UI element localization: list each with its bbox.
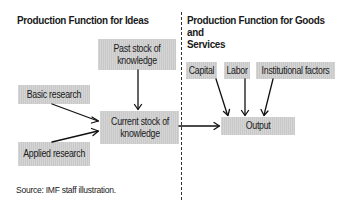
arrow-basic-to-current	[52, 104, 99, 123]
arrow-past-to-current	[135, 70, 142, 110]
arrow-applied-to-current	[52, 129, 99, 143]
arrow-current-to-output	[179, 123, 220, 130]
arrow-capital-to-output	[216, 79, 230, 116]
arrow-labor-to-output	[242, 79, 249, 116]
source-note: Source: IMF staff illustration.	[16, 184, 116, 195]
diagram-arrows	[0, 0, 353, 208]
arrow-institutional-to-output	[261, 79, 273, 116]
